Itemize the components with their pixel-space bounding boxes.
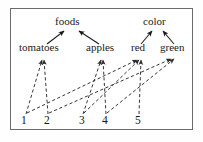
- instance-edge-2-tomatoes: [44, 60, 48, 114]
- concept-label-apples: apples: [86, 42, 114, 53]
- instance-edge-2-green: [49, 59, 171, 113]
- instance-label-4: 4: [102, 115, 108, 126]
- instance-label-3: 3: [79, 115, 85, 126]
- concept-label-green: green: [160, 42, 184, 53]
- concept-label-red: red: [131, 42, 145, 53]
- category-label-foods: foods: [55, 16, 79, 27]
- instance-label-2: 2: [44, 115, 50, 126]
- instance-edge-1-tomatoes: [26, 60, 42, 114]
- diagram-canvas: foods color tomatoes apples red green 1 …: [0, 0, 203, 142]
- instance-edge-4-apples: [103, 60, 106, 114]
- instance-edge-3-apples: [83, 60, 101, 114]
- instance-label-1: 1: [21, 115, 27, 126]
- instance-edge-1-red: [27, 60, 137, 113]
- instance-label-5: 5: [135, 115, 141, 126]
- concept-label-tomatoes: tomatoes: [19, 42, 59, 53]
- category-label-color: color: [143, 16, 166, 27]
